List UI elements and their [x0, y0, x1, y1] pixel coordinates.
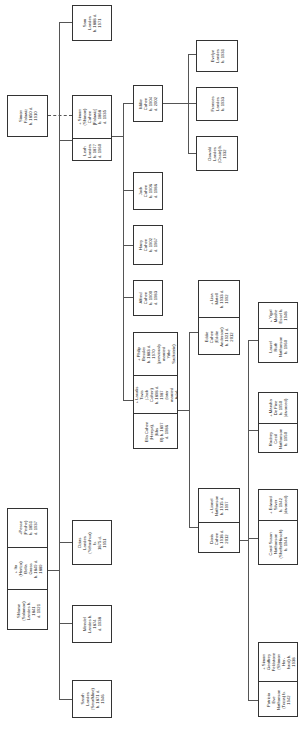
connector-ella [123, 400, 133, 401]
connector-frances [188, 103, 196, 104]
person-label: + Edward Silver b. 1942 (divorced) [268, 496, 288, 515]
connector-from-millie [163, 103, 188, 104]
connector-gen3-millie-trunk [188, 54, 189, 154]
person-frances-landes[interactable]: Frances Landes b. 1933 [196, 87, 238, 121]
person-label: Ozias Landes (Yehoshua) b. 1875 d. 1951 [77, 532, 107, 553]
person-marsha-de-fine[interactable]: + Marsha De Fine b. 1950 (divorced) [259, 393, 297, 423]
person-mendel-landes[interactable]: Mendel Landes b. 1874 d. 1938 [72, 605, 112, 643]
person-carol-nathanson[interactable]: Carol Susan Nathanson (Sheftel/Hirsch) b… [259, 520, 297, 565]
person-label: + Lisa Matell b. 1933 d. 1992 [209, 289, 229, 309]
person-label: Rodney Cecil Nathanson b. 1950 [268, 429, 288, 449]
connector-leah [59, 140, 72, 141]
person-leah-landes[interactable]: Leah Landes b. 1877 d. 1960 [73, 138, 111, 161]
person-label: Ella Cohen (Henya), (Mrs B) b. 1897 d. 1… [143, 421, 168, 443]
couple-carol-edward[interactable]: + Edward Silver b. 1942 (divorced) Carol… [258, 489, 298, 565]
person-label: + Simon (Shimon) Cohen [Falowiz] b. 1868… [77, 108, 107, 127]
person-eddie-cohen[interactable]: Eddie Cohen (Eddie Anderson) b. 1921 d. … [199, 317, 239, 355]
person-label: Shlome (Solomon) Landes b. 1841 d. 1921 [15, 601, 40, 621]
person-oswald-landes[interactable]: Oswald Landes (Ossie) b. 1932 [196, 136, 238, 171]
person-label: Mendel Landes b. 1874 d. 1938 [82, 615, 102, 634]
person-shlome[interactable]: Shlome (Solomon) Landes b. 1841 d. 1921 [8, 589, 47, 630]
person-label: Oswald Landes (Ossie) b. 1932 [207, 144, 227, 164]
person-label: Carol Susan Nathanson (Sheftel/Hirsch) b… [268, 529, 288, 558]
connector-patricia [248, 700, 258, 701]
person-ozias-landes[interactable]: Ozias Landes (Yehoshua) b. 1875 d. 1951 [72, 520, 112, 565]
person-label: Doris Cohen b. 1918 d. 2012 [209, 529, 229, 549]
couple-leah-simon[interactable]: + Simon (Shimon) Cohen [Falowiz] b. 1868… [72, 95, 112, 161]
person-sam-landes[interactable]: Sam Landes b. 1888 d. 1971 [72, 5, 112, 41]
person-label: + Philip Bessler b. 1883 d. 1970 (previo… [136, 343, 176, 365]
person-label: + Marsha De Fine b. 1950 (divorced) [268, 399, 288, 418]
person-edward-silver[interactable]: + Edward Silver b. 1942 (divorced) [259, 490, 297, 520]
person-label: Laurel Ruth Nathanson b. 1960 [268, 336, 288, 356]
connector-carol [248, 538, 258, 539]
person-sarah-landes[interactable]: Sarah Landes (Sera/Mine) b. 1871 d. 1946 [72, 680, 112, 718]
person-harry-cohen[interactable]: Harry Cohen b. 1902 d. 1967 [133, 225, 163, 265]
person-label: Alfred Cohen b. 1900 d. 1983 [138, 291, 158, 305]
person-ita[interactable]: + Ita (Hertzo) Bella Gross b. 1849 d. 18… [8, 547, 47, 589]
person-lavalis-tsvis[interactable]: + Lavalis Tsvis (Jack Cohen) b. 1898 d. … [134, 375, 177, 413]
person-label: Millie Cohen b. 1904 d. 2002 [138, 97, 158, 111]
connector-rodney [248, 430, 258, 431]
connector-harry [123, 245, 133, 246]
couple-eddie-lisa[interactable]: + Lisa Matell b. 1933 d. 1992 Eddie Cohe… [198, 280, 240, 355]
couple-patricia-simon[interactable]: + Simon Geoffrey Feldstone (Shimon Her- … [258, 642, 298, 717]
person-label: + Lionel Nathanson b. 1915 d. 1997 [209, 495, 229, 515]
connector-sam [59, 22, 72, 23]
connector-parents [48, 570, 59, 571]
person-patricia-nathanson[interactable]: Patricia Eve Nathanson (Tricia) b. 1942 [259, 681, 297, 717]
person-label: + Yigal Moshe Essel b. 1948 [268, 306, 288, 325]
person-label: +Pesse (Peshe) b. 1851 d. 1937 [18, 521, 38, 536]
couple-rodney-marsha[interactable]: + Marsha De Fine b. 1950 (divorced) Rodn… [258, 392, 298, 453]
connector-oswald [188, 153, 196, 154]
person-label: + Lavalis Tsvis (Jack Cohen) b. 1898 d. … [134, 384, 177, 406]
person-alfred-cohen[interactable]: Alfred Cohen b. 1900 d. 1983 [133, 280, 163, 316]
person-label: + Ita (Hertzo) Bella Gross b. 1849 d. 18… [13, 559, 43, 579]
person-label: Simon Falowiz b. 1850 d. 1910 [18, 106, 38, 126]
couple-ella-group[interactable]: + Philip Bessler b. 1883 d. 1970 (previo… [133, 332, 178, 449]
person-label: Leah Landes b. 1877 d. 1960 [82, 141, 102, 160]
person-label: Jack Cohen b. 1906 d. 1986 [138, 184, 158, 198]
connector-evelyn [188, 54, 196, 55]
person-yigal-essel[interactable]: + Yigal Moshe Essel b. 1948 [259, 303, 297, 328]
connector-ozias [59, 542, 72, 543]
person-simon-cohen[interactable]: + Simon (Shimon) Cohen [Falowiz] b. 1868… [73, 96, 111, 138]
connector-from-doris [240, 540, 248, 541]
person-jack-cohen[interactable]: Jack Cohen b. 1906 d. 1986 [133, 172, 163, 210]
connector-gen2-trunk [123, 103, 124, 401]
connector-gen1-trunk [59, 22, 60, 699]
person-simon-feldstone[interactable]: + Simon Geoffrey Feldstone (Shimon Her- … [259, 643, 297, 681]
connector-mendel [59, 623, 72, 624]
person-label: Patricia Eve Nathanson (Tricia) b. 1942 [266, 690, 291, 710]
person-label: Frances Landes b. 1933 [210, 96, 225, 111]
person-lisa-matell[interactable]: + Lisa Matell b. 1933 d. 1992 [199, 281, 239, 317]
couple-laurel-yigal[interactable]: + Yigal Moshe Essel b. 1948 Laurel Ruth … [258, 302, 298, 363]
person-label: + Simon Geoffrey Feldstone (Shimon Her- … [261, 653, 296, 672]
connector-gen3-ella-trunk [189, 332, 190, 527]
person-simon-falowiz[interactable]: Simon Falowiz b. 1850 d. 1910 [7, 95, 48, 137]
connector-sarah [59, 699, 72, 700]
person-label: Sarah Landes (Sera/Mine) b. 1871 d. 1946 [80, 688, 105, 710]
connector-alfred [123, 297, 133, 298]
person-doris-cohen[interactable]: Doris Cohen b. 1918 d. 2012 [199, 522, 239, 553]
person-ella-cohen[interactable]: Ella Cohen (Henya), (Mrs B) b. 1897 d. 1… [134, 413, 177, 449]
connector-jack [123, 190, 133, 191]
connector-from-ella [178, 410, 189, 411]
person-rodney-nathanson[interactable]: Rodney Cecil Nathanson b. 1950 [259, 423, 297, 453]
person-label: Sam Landes b. 1888 d. 1971 [82, 14, 102, 33]
couple-doris-lionel[interactable]: + Lionel Nathanson b. 1915 d. 1997 Doris… [198, 488, 240, 553]
person-millie-cohen[interactable]: Millie Cohen b. 1904 d. 2002 [133, 85, 163, 122]
couple-landes-parents[interactable]: +Pesse (Peshe) b. 1851 d. 1937 + Ita (He… [7, 508, 48, 630]
connector-millie [123, 103, 133, 104]
connector-laurel [248, 340, 258, 341]
person-label: Evelyn Landes b. 1931 [210, 49, 225, 63]
person-laurel-nathanson[interactable]: Laurel Ruth Nathanson b. 1960 [259, 328, 297, 363]
connector-simon-falowiz [48, 115, 72, 116]
person-label: Harry Cohen b. 1902 d. 1967 [138, 238, 158, 252]
person-philip-bessler[interactable]: + Philip Bessler b. 1883 d. 1970 (previo… [134, 333, 177, 375]
connector-doris [189, 527, 198, 528]
person-lionel-nathanson[interactable]: + Lionel Nathanson b. 1915 d. 1997 [199, 489, 239, 522]
connector-gen2-from-leah [112, 136, 123, 137]
person-evelyn-landes[interactable]: Evelyn Landes b. 1931 [196, 40, 238, 72]
person-peshe[interactable]: +Pesse (Peshe) b. 1851 d. 1937 [8, 509, 47, 547]
